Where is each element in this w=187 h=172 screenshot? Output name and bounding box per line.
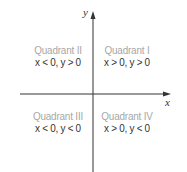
y-axis-label: y — [83, 6, 88, 18]
quadrant-ii-label: Quadrant II x < 0, y > 0 — [23, 44, 93, 68]
quadrant-i-condition: x > 0, y > 0 — [96, 56, 159, 68]
quadrant-iii-title: Quadrant III — [27, 110, 90, 122]
coordinate-axes — [0, 0, 187, 172]
quadrant-iii-label: Quadrant III x < 0, y < 0 — [23, 110, 93, 134]
quadrant-iv-title: Quadrant IV — [96, 110, 159, 122]
quadrant-i-title: Quadrant I — [96, 44, 159, 56]
quadrant-iii-condition: x < 0, y < 0 — [27, 122, 90, 134]
y-axis-arrow-icon — [91, 11, 96, 19]
quadrant-iv-condition: x > 0, y < 0 — [96, 122, 159, 134]
quadrant-ii-condition: x < 0, y > 0 — [27, 56, 90, 68]
quadrant-iv-label: Quadrant IV x > 0, y < 0 — [92, 110, 162, 134]
x-axis-label: x — [165, 96, 170, 108]
quadrant-ii-title: Quadrant II — [27, 44, 90, 56]
quadrant-i-label: Quadrant I x > 0, y > 0 — [92, 44, 162, 68]
